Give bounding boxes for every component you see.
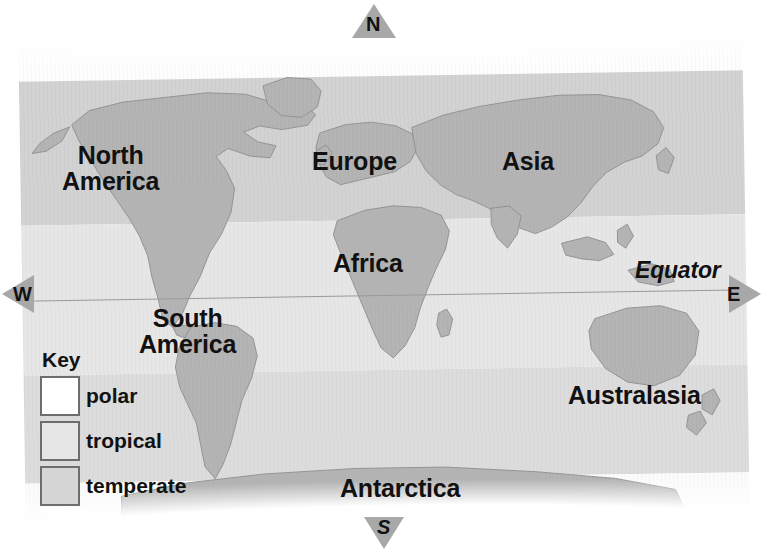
map-key: Key polar tropical temperate <box>40 348 190 511</box>
label-australasia: Australasia <box>568 382 701 408</box>
label-asia: Asia <box>502 148 554 174</box>
label-europe: Europe <box>312 148 397 174</box>
key-row-polar: polar <box>40 376 190 416</box>
key-title: Key <box>42 348 190 372</box>
compass-east-letter: E <box>727 283 740 306</box>
land-australia <box>589 305 700 387</box>
compass-south-letter: S <box>377 516 390 539</box>
compass-north-letter: N <box>366 13 380 36</box>
compass-north: N <box>352 4 396 40</box>
world-climate-map: North America South America Europe Asia … <box>0 0 767 554</box>
land-india <box>491 206 522 248</box>
land-madagascar <box>437 309 453 337</box>
key-label-tropical: tropical <box>86 429 162 453</box>
land-indonesia <box>561 236 613 261</box>
key-label-temperate: temperate <box>86 474 186 498</box>
key-swatch-temperate <box>40 466 80 506</box>
label-equator: Equator <box>635 259 721 283</box>
label-north-america: North America <box>62 142 159 194</box>
land-africa <box>333 205 451 359</box>
key-row-temperate: temperate <box>40 466 190 506</box>
compass-east: E <box>729 275 763 313</box>
label-antarctica: Antarctica <box>340 475 460 501</box>
land-north-america <box>71 91 319 329</box>
compass-west: W <box>2 275 36 313</box>
land-japan <box>656 147 674 173</box>
compass-south: S <box>364 517 404 551</box>
key-swatch-tropical <box>40 421 80 461</box>
land-new-zealand <box>702 389 720 415</box>
key-swatch-polar <box>40 376 80 416</box>
land-new-zealand-south <box>686 411 706 435</box>
land-philippines <box>617 224 633 248</box>
key-label-polar: polar <box>86 384 137 408</box>
compass-west-letter: W <box>13 283 32 306</box>
key-row-tropical: tropical <box>40 421 190 461</box>
label-africa: Africa <box>333 250 403 276</box>
